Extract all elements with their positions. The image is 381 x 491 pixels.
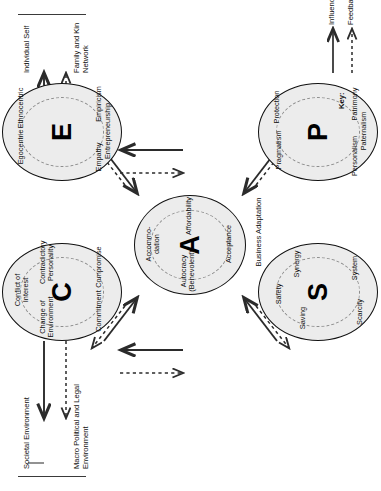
node-c-satellite-4: Change of Environment [39,296,56,338]
label-business-adaptation: Business Adaptation [254,187,263,277]
node-c[interactable]: C Conflict of Interest Contradictory Per… [2,243,122,341]
node-s-satellite-4: Saving [299,298,307,338]
label-individual-self: Individual Self [22,3,31,73]
connector-e-p [120,150,183,173]
node-e-satellite-4: Empathy [95,136,103,178]
divider-left-environment [18,476,86,477]
node-e[interactable]: E Egocentric Ethnocentric Empiricism Ent… [2,83,122,181]
key-feedback-label: Feedback [346,0,355,25]
node-p-satellite-0: Pragmatism [275,126,283,174]
node-s[interactable]: S Safety Synergy System Scarcity Saving [258,243,378,341]
label-societal-environment: Societal Environment [22,349,31,469]
label-macro-environment: Macro Political and Legal Environment [72,347,90,469]
node-c-satellite-2: Compromise [95,244,103,290]
node-e-satellite-1: Ethnocentric [17,84,25,132]
label-family-network: Family and Kin Network [72,3,90,73]
connector-c-e [120,350,183,373]
node-s-satellite-2: System [351,248,359,288]
node-p[interactable]: P Pragmatism Protection Patrimony Patern… [258,83,378,181]
diagram-rotated-layer: C Conflict of Interest Contradictory Per… [0,0,381,491]
key-title: Key: [337,93,346,109]
node-s-satellite-0: Safety [275,274,283,314]
node-a-satellite-2: Acceptance [225,222,233,266]
node-a-satellite-0: Accommo-dation [145,222,162,266]
node-e-satellite-3: Entrepreneurship [104,102,112,160]
node-c-satellite-3: Commitment [95,288,103,334]
node-c-satellite-1: Contradictory Personality [39,242,56,284]
node-p-satellite-4: Personalism [351,132,359,180]
node-p-satellite-3: Paternalism [360,106,368,156]
node-a-satellite-3: Autocracy (Benevolent) [180,248,197,294]
node-c-satellite-0: Conflict of Interest [14,264,31,316]
node-s-satellite-3: Scarcity [356,292,364,332]
node-s-satellite-1: Synergy [293,244,301,284]
node-p-satellite-1: Protection [273,84,281,130]
key-influence-label: Influence [327,0,336,25]
node-a-satellite-1: Affordability [185,194,193,238]
diagram-canvas: C Conflict of Interest Contradictory Per… [0,0,381,491]
node-a[interactable]: A Accommo-dation Affordability Acceptanc… [134,195,246,295]
